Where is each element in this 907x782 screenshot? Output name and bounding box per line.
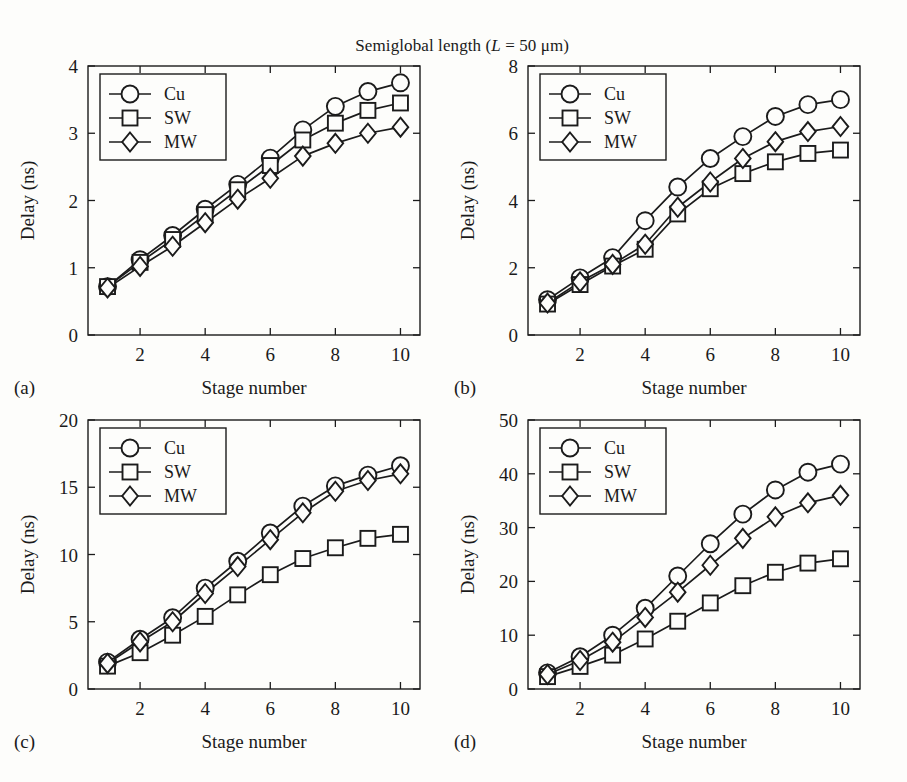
data-point-SW-9 <box>800 146 815 161</box>
x-tick-label: 8 <box>771 698 781 719</box>
legend-label-Cu: Cu <box>604 84 625 104</box>
plot-d: 24681001020304050Delay (ns)Stage number(… <box>440 400 893 755</box>
data-point-Cu-8 <box>327 98 344 115</box>
y-tick-label: 4 <box>69 56 79 77</box>
data-point-Cu-8 <box>767 481 784 498</box>
y-tick-label: 0 <box>69 679 79 700</box>
data-point-MW-8 <box>768 132 784 151</box>
data-point-SW-7 <box>735 578 750 593</box>
data-point-SW-8 <box>328 116 343 131</box>
x-tick-label: 4 <box>640 344 650 365</box>
data-point-Cu-4 <box>637 212 654 229</box>
legend-label-SW: SW <box>604 108 631 128</box>
y-tick-label: 0 <box>509 679 519 700</box>
y-tick-label: 10 <box>59 545 78 566</box>
legend-box <box>540 428 666 514</box>
data-point-SW-10 <box>393 527 408 542</box>
data-point-MW-8 <box>768 507 784 526</box>
data-point-MW-7 <box>295 147 311 166</box>
data-point-Cu-5 <box>669 179 686 196</box>
panel-letter-d: (d) <box>454 731 476 753</box>
y-tick-label: 20 <box>499 571 518 592</box>
x-tick-label: 4 <box>640 698 650 719</box>
data-point-MW-5 <box>670 583 686 602</box>
data-point-Cu-9 <box>359 83 376 100</box>
panel-d: 24681001020304050Delay (ns)Stage number(… <box>440 400 893 755</box>
series-markers-SW <box>540 551 848 684</box>
x-tick-label: 6 <box>706 698 716 719</box>
y-tick-label: 3 <box>69 123 79 144</box>
data-point-MW-8 <box>328 134 344 153</box>
data-point-MW-9 <box>800 122 816 141</box>
x-tick-label: 2 <box>135 698 145 719</box>
data-point-SW-4 <box>638 631 653 646</box>
x-tick-label: 6 <box>266 344 276 365</box>
data-point-MW-6 <box>702 556 718 575</box>
panel-b: 24681002468Delay (ns)Stage number(b)CuSW… <box>440 46 893 401</box>
legend-label-MW: MW <box>164 486 197 506</box>
square-marker <box>123 465 138 480</box>
x-tick-label: 2 <box>575 698 585 719</box>
panel-letter-c: (c) <box>14 731 35 753</box>
x-tick-label: 10 <box>391 344 410 365</box>
legend-label-SW: SW <box>604 462 631 482</box>
data-point-SW-5 <box>230 587 245 602</box>
y-tick-label: 6 <box>509 123 519 144</box>
series-line-SW <box>548 559 841 677</box>
legend-label-Cu: Cu <box>164 84 185 104</box>
circle-marker <box>122 440 139 457</box>
x-tick-label: 8 <box>331 698 341 719</box>
data-point-Cu-9 <box>799 96 816 113</box>
legend-box <box>100 74 226 160</box>
y-tick-label: 0 <box>509 325 519 346</box>
x-tick-label: 10 <box>391 698 410 719</box>
legend-box <box>540 74 666 160</box>
legend-box <box>100 428 226 514</box>
figure-page: Semiglobal length (L = 50 μm) 2468100123… <box>0 0 907 782</box>
y-tick-label: 8 <box>509 56 519 77</box>
y-tick-label: 2 <box>69 191 79 212</box>
x-axis-title: Stage number <box>641 377 747 398</box>
data-point-MW-9 <box>800 493 816 512</box>
y-axis-title: Delay (ns) <box>17 161 39 241</box>
y-tick-label: 30 <box>499 518 518 539</box>
data-point-Cu-10 <box>832 456 849 473</box>
circle-marker <box>122 86 139 103</box>
y-tick-label: 4 <box>509 191 519 212</box>
data-point-Cu-10 <box>832 91 849 108</box>
data-point-SW-8 <box>768 154 783 169</box>
legend-label-MW: MW <box>604 132 637 152</box>
square-marker <box>563 465 578 480</box>
y-tick-label: 50 <box>499 410 518 431</box>
legend-label-SW: SW <box>164 108 191 128</box>
x-tick-label: 2 <box>575 344 585 365</box>
data-point-MW-10 <box>833 486 849 505</box>
x-axis-title: Stage number <box>641 731 747 752</box>
legend-label-MW: MW <box>604 486 637 506</box>
legend-label-MW: MW <box>164 132 197 152</box>
data-point-Cu-7 <box>734 128 751 145</box>
data-point-MW-7 <box>735 529 751 548</box>
x-tick-label: 4 <box>200 698 210 719</box>
circle-marker <box>562 86 579 103</box>
data-point-Cu-9 <box>799 464 816 481</box>
series-markers-SW <box>540 143 848 312</box>
data-point-SW-9 <box>800 556 815 571</box>
data-point-SW-10 <box>833 551 848 566</box>
data-point-SW-7 <box>295 551 310 566</box>
x-tick-label: 10 <box>831 698 850 719</box>
x-tick-label: 8 <box>331 344 341 365</box>
panel-c: 24681005101520Delay (ns)Stage number(c)C… <box>0 400 453 755</box>
data-point-SW-8 <box>768 565 783 580</box>
series-markers-SW <box>100 527 408 674</box>
y-tick-label: 40 <box>499 464 518 485</box>
y-axis-title: Delay (ns) <box>17 515 39 595</box>
y-tick-label: 15 <box>59 477 78 498</box>
data-point-Cu-6 <box>702 535 719 552</box>
data-point-SW-5 <box>670 614 685 629</box>
x-axis-title: Stage number <box>201 377 307 398</box>
panel-a: 24681001234Delay (ns)Stage number(a)CuSW… <box>0 46 453 401</box>
data-point-SW-6 <box>263 567 278 582</box>
data-point-SW-4 <box>198 609 213 624</box>
y-tick-label: 1 <box>69 258 79 279</box>
